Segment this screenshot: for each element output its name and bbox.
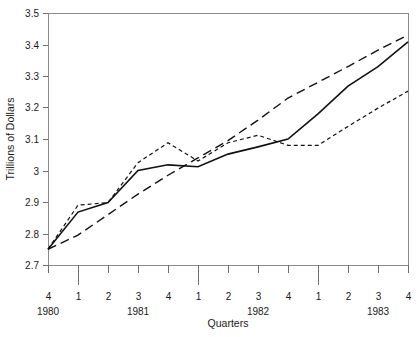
x-quarter-label-1983-Q3: 3 bbox=[376, 291, 382, 302]
y-tick-label-3.5: 3.5 bbox=[25, 8, 39, 19]
x-quarter-label-1983-Q4: 4 bbox=[406, 291, 412, 302]
y-tick-label-2.7: 2.7 bbox=[25, 260, 39, 271]
x-year-label-1980: 1980 bbox=[37, 306, 60, 317]
y-tick-label-3.3: 3.3 bbox=[25, 71, 39, 82]
y-tick-label-3.4: 3.4 bbox=[25, 40, 39, 51]
y-tick-label-3.1: 3.1 bbox=[25, 134, 39, 145]
x-year-label-1982: 1982 bbox=[247, 306, 270, 317]
x-quarter-label-1982-Q2: 2 bbox=[226, 291, 232, 302]
y-tick-label-3: 3 bbox=[33, 166, 39, 177]
y-axis-title: Trillions of Dollars bbox=[4, 97, 16, 180]
chart-background bbox=[0, 0, 419, 337]
line-chart: 2.72.82.933.13.23.33.43.5 4123412341234 … bbox=[0, 0, 419, 337]
y-tick-label-2.8: 2.8 bbox=[25, 229, 39, 240]
x-quarter-label-1981-Q1: 1 bbox=[76, 291, 82, 302]
x-quarter-label-1981-Q3: 3 bbox=[136, 291, 142, 302]
x-quarter-label-1981-Q2: 2 bbox=[106, 291, 112, 302]
x-quarter-label-1983-Q1: 1 bbox=[316, 291, 322, 302]
x-quarter-label-1983-Q2: 2 bbox=[346, 291, 352, 302]
chart-figure: 2.72.82.933.13.23.33.43.5 4123412341234 … bbox=[0, 0, 419, 337]
x-quarter-label-1980-Q4: 4 bbox=[46, 291, 52, 302]
y-tick-label-3.2: 3.2 bbox=[25, 102, 39, 113]
x-year-label-1981: 1981 bbox=[127, 306, 150, 317]
y-axis-tick-labels: 2.72.82.933.13.23.33.43.5 bbox=[25, 8, 39, 271]
x-axis-title: Quarters bbox=[208, 317, 249, 329]
x-quarter-label-1982-Q1: 1 bbox=[196, 291, 202, 302]
y-tick-label-2.9: 2.9 bbox=[25, 197, 39, 208]
x-quarter-label-1982-Q3: 3 bbox=[256, 291, 262, 302]
x-quarter-label-1982-Q4: 4 bbox=[286, 291, 292, 302]
x-year-label-1983: 1983 bbox=[367, 306, 390, 317]
x-quarter-label-1981-Q4: 4 bbox=[166, 291, 172, 302]
